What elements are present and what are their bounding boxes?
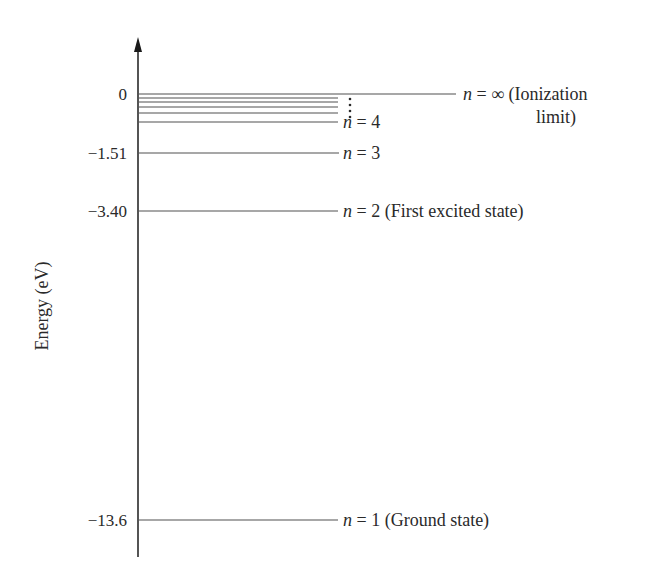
level-n-3: −1.51 n = 3 <box>88 143 381 163</box>
tick-label: −13.6 <box>88 511 127 530</box>
level-label: n = 3 <box>343 143 380 163</box>
tick-label: −1.51 <box>88 144 127 163</box>
level-n-4: n = 4 <box>139 112 380 132</box>
level-n-1: −13.6 n = 1 (Ground state) <box>88 510 489 531</box>
level-label: n = 2 (First excited state) <box>343 201 524 222</box>
level-label: n = 1 (Ground state) <box>343 510 489 531</box>
continuum-lines <box>139 98 338 113</box>
level-label: n = 4 <box>343 112 380 132</box>
level-label-line2: limit) <box>536 107 576 128</box>
tick-label: 0 <box>119 85 128 104</box>
level-label: n = ∞ (Ionization <box>463 84 587 105</box>
tick-label: −3.40 <box>88 202 127 221</box>
level-n-2: −3.40 n = 2 (First excited state) <box>88 201 524 222</box>
energy-level-diagram: Energy (eV) 0 n = ∞ (Ionization limit) n… <box>0 0 659 581</box>
y-axis-arrow-icon <box>134 37 142 52</box>
y-axis-label: Energy (eV) <box>32 261 53 350</box>
